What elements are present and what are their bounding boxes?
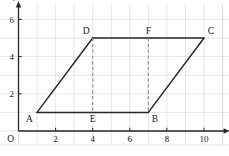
vertex-label-A: A — [26, 114, 33, 124]
x-tick-label-8: 8 — [165, 134, 170, 144]
x-tick-label-10: 10 — [200, 134, 210, 144]
vertex-label-F: F — [146, 26, 151, 36]
tick-labels: 246810246Oxy — [7, 0, 229, 143]
origin-label: O — [7, 134, 14, 144]
axes — [16, 1, 229, 134]
grid-lines — [0, 5, 229, 145]
x-tick-label-6: 6 — [128, 134, 133, 144]
x-tick-label-2: 2 — [53, 134, 58, 144]
geometry-figure: 246810246Oxy ABCDEF — [0, 0, 229, 156]
vertex-label-D: D — [83, 26, 90, 36]
vertex-label-B: B — [152, 114, 158, 124]
y-axis-label: y — [12, 0, 17, 2]
geometry-canvas: 246810246Oxy ABCDEF — [0, 0, 229, 156]
y-tick-label-6: 6 — [10, 15, 15, 25]
y-tick-label-2: 2 — [10, 89, 15, 99]
vertex-label-E: E — [90, 114, 96, 124]
x-tick-label-4: 4 — [90, 134, 95, 144]
vertex-label-C: C — [208, 26, 214, 36]
y-tick-label-4: 4 — [10, 52, 15, 62]
